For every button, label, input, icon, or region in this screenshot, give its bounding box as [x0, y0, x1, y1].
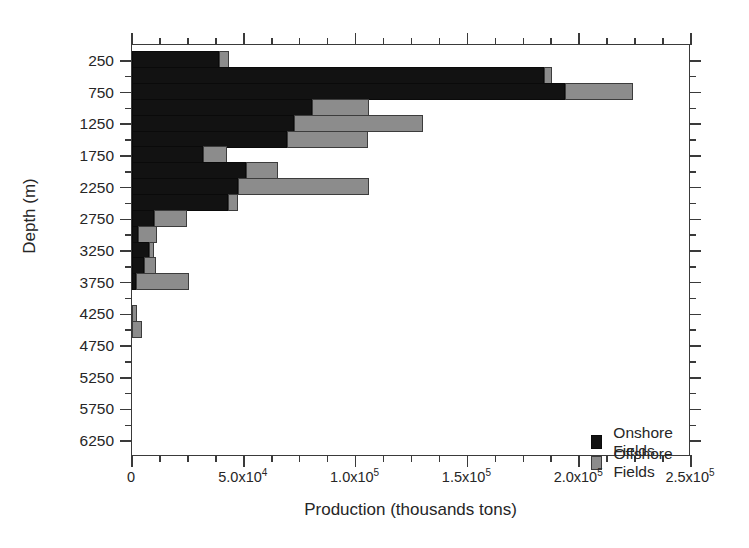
x-tick-minor [271, 38, 273, 45]
x-tick-minor [187, 38, 189, 45]
y-tick-minor [125, 171, 132, 173]
y-tick-major [120, 187, 132, 189]
x-tick-minor [495, 38, 497, 45]
bar-segment-onshore [132, 146, 203, 163]
y-tick-major [120, 60, 132, 62]
x-tick-label: 5.0x104 [218, 470, 267, 485]
bar-segment-onshore [132, 51, 219, 68]
bar-row [132, 273, 691, 290]
x-tick-minor [439, 38, 441, 45]
bar-segment-onshore [132, 83, 565, 100]
bar-row [132, 83, 691, 100]
y-tick-label: 4250 [80, 306, 114, 321]
y-tick-major [120, 345, 132, 347]
y-tick-minor [689, 425, 696, 427]
bar-row [132, 67, 691, 84]
bar-row [132, 115, 691, 132]
x-tick-label: 0 [127, 470, 135, 485]
y-tick-major [689, 409, 701, 411]
y-tick-minor [125, 234, 132, 236]
y-tick-label: 6250 [80, 433, 114, 448]
x-tick-major [690, 33, 692, 45]
bar-row [132, 242, 691, 259]
plot-area: Onshore FieldsOffshore Fields b [131, 44, 690, 456]
bar-segment-onshore [132, 257, 144, 274]
x-axis-title: Production (thousands tons) [131, 500, 690, 520]
bar-segment-onshore [132, 242, 149, 259]
bar-segment-offshore [154, 210, 187, 227]
y-tick-major [120, 155, 132, 157]
x-tick-minor [159, 38, 161, 45]
y-tick-minor [125, 108, 132, 110]
x-tick-minor [523, 38, 525, 45]
x-tick-major [690, 455, 692, 467]
bar-segment-offshore [132, 321, 142, 338]
bar-segment-offshore [287, 131, 368, 148]
y-tick-minor [125, 393, 132, 395]
y-tick-label: 1250 [80, 116, 114, 131]
y-axis-tick-labels: 2507501250175022502750325037504250475052… [0, 44, 131, 456]
y-tick-label: 1750 [80, 147, 114, 162]
x-tick-major [131, 33, 133, 45]
y-tick-major [120, 377, 132, 379]
y-tick-minor [125, 361, 132, 363]
y-tick-minor [125, 298, 132, 300]
bar-row [132, 178, 691, 195]
y-tick-label: 750 [88, 84, 114, 99]
bar-segment-offshore [144, 257, 156, 274]
y-tick-minor [125, 76, 132, 78]
x-tick-minor [327, 38, 329, 45]
y-tick-label: 2250 [80, 179, 114, 194]
bar-segment-offshore [203, 146, 227, 163]
bar-row [132, 321, 691, 338]
y-tick-label: 5250 [80, 369, 114, 384]
legend-swatch-onshore [591, 435, 602, 449]
y-tick-major [120, 282, 132, 284]
y-tick-major [120, 92, 132, 94]
x-tick-label: 1.5x105 [442, 470, 491, 485]
y-tick-major [120, 219, 132, 221]
bar-segment-offshore [312, 99, 369, 116]
y-tick-minor [125, 266, 132, 268]
chart-figure: Depth (m) 250750125017502250275032503750… [0, 0, 749, 548]
y-tick-major [120, 314, 132, 316]
y-tick-label: 2750 [80, 211, 114, 226]
bar-segment-onshore [132, 115, 294, 132]
y-tick-label: 5750 [80, 401, 114, 416]
x-tick-minor [215, 38, 217, 45]
y-tick-label: 250 [88, 52, 114, 67]
bar-segment-offshore [228, 194, 238, 211]
bar-segment-offshore [136, 273, 189, 290]
bar-row [132, 305, 691, 322]
y-tick-major [689, 440, 701, 442]
bar-row [132, 162, 691, 179]
x-tick-major [578, 33, 580, 45]
bar-segment-offshore [238, 178, 369, 195]
bar-segment-onshore [132, 99, 312, 116]
bar-segment-offshore [294, 115, 423, 132]
bar-segment-onshore [132, 67, 544, 84]
y-tick-minor [125, 203, 132, 205]
y-tick-minor [125, 425, 132, 427]
bar-segment-onshore [132, 131, 287, 148]
x-tick-major [467, 33, 469, 45]
x-tick-minor [411, 38, 413, 45]
bar-segment-offshore [138, 226, 157, 243]
y-tick-major [689, 377, 701, 379]
y-tick-minor [689, 393, 696, 395]
y-tick-major [120, 250, 132, 252]
bar-segment-onshore [132, 162, 246, 179]
y-tick-minor [125, 139, 132, 141]
bar-segment-offshore [246, 162, 278, 179]
x-tick-major [243, 33, 245, 45]
bar-segment-offshore [132, 305, 137, 322]
y-tick-major [120, 409, 132, 411]
x-tick-minor [662, 38, 664, 45]
x-axis-tick-labels: 05.0x1041.0x1051.5x1052.0x1052.5x105 [131, 456, 690, 496]
x-tick-minor [550, 38, 552, 45]
bar-segment-onshore [132, 194, 228, 211]
bar-row [132, 51, 691, 68]
bar-row [132, 99, 691, 116]
bar-row [132, 146, 691, 163]
y-tick-label: 3750 [80, 274, 114, 289]
